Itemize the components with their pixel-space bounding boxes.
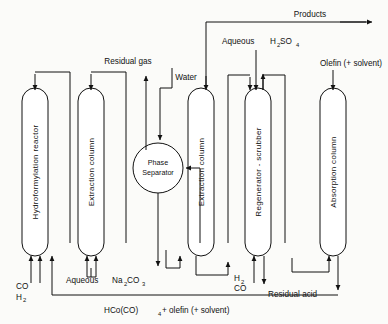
label-aqueous-na2co3: Aqueous Na 2 CO 3 bbox=[66, 276, 145, 287]
process-flow-diagram: Residual gas Water Products Aqueous H 2 … bbox=[0, 0, 388, 324]
label-hco-suffix: + olefin (+ solvent) bbox=[162, 306, 230, 315]
vessel-label-extraction-column-2: Extraction column bbox=[197, 138, 206, 207]
label-olefin-solvent: Olefin (+ solvent) bbox=[320, 59, 382, 68]
vessel-label-regenerator-scrubber: Regenerator - scrubber bbox=[254, 127, 263, 216]
label-h2so4-sub4: 4 bbox=[296, 42, 300, 48]
vessel-label-hydroformylation-reactor: Hydroformylation reactor bbox=[31, 125, 40, 220]
label-products: Products bbox=[294, 10, 326, 19]
label-h2-co-feed: H 2 CO bbox=[234, 274, 246, 293]
label-h2so4-so: SO bbox=[280, 37, 292, 46]
label-hco-co4-recycle: HCo(CO) 4 + olefin (+ solvent) bbox=[104, 306, 230, 317]
vessel-label-absorption-column: Absorption column bbox=[329, 136, 338, 207]
arrow-water-into-separator bbox=[160, 88, 172, 140]
label-water: Water bbox=[175, 73, 197, 82]
label-hco-prefix: HCo(CO) bbox=[104, 306, 138, 315]
label-regen-co: CO bbox=[234, 284, 246, 293]
label-co-h2-feed: CO H 2 bbox=[16, 282, 28, 303]
label-aqueous-prefix: Aqueous bbox=[222, 37, 254, 46]
label-residual-acid: Residual acid bbox=[268, 290, 318, 299]
line-products bbox=[206, 22, 366, 88]
label-feed-h: H bbox=[16, 293, 22, 302]
diagram-canvas: Residual gas Water Products Aqueous H 2 … bbox=[0, 0, 388, 324]
label-regen-h: H bbox=[234, 274, 240, 283]
line-extr2-bottom-left bbox=[196, 256, 228, 275]
label-separator: Separator bbox=[142, 168, 174, 177]
label-h2so4-h: H bbox=[270, 37, 276, 46]
label-feed-h-sub2: 2 bbox=[23, 297, 26, 303]
vessel-label-extraction-column-1: Extraction column bbox=[87, 138, 96, 207]
label-na2co3-prefix: Aqueous bbox=[66, 276, 98, 285]
label-na2co3-sub3: 3 bbox=[142, 281, 145, 287]
label-feed-co: CO bbox=[16, 282, 28, 291]
label-residual-gas: Residual gas bbox=[104, 57, 151, 66]
label-phase: Phase bbox=[148, 158, 168, 167]
label-aqueous-h2so4: Aqueous H 2 SO 4 bbox=[222, 37, 300, 48]
label-na2co3-co: CO bbox=[127, 276, 139, 285]
label-na2co3-na: Na bbox=[112, 276, 123, 285]
